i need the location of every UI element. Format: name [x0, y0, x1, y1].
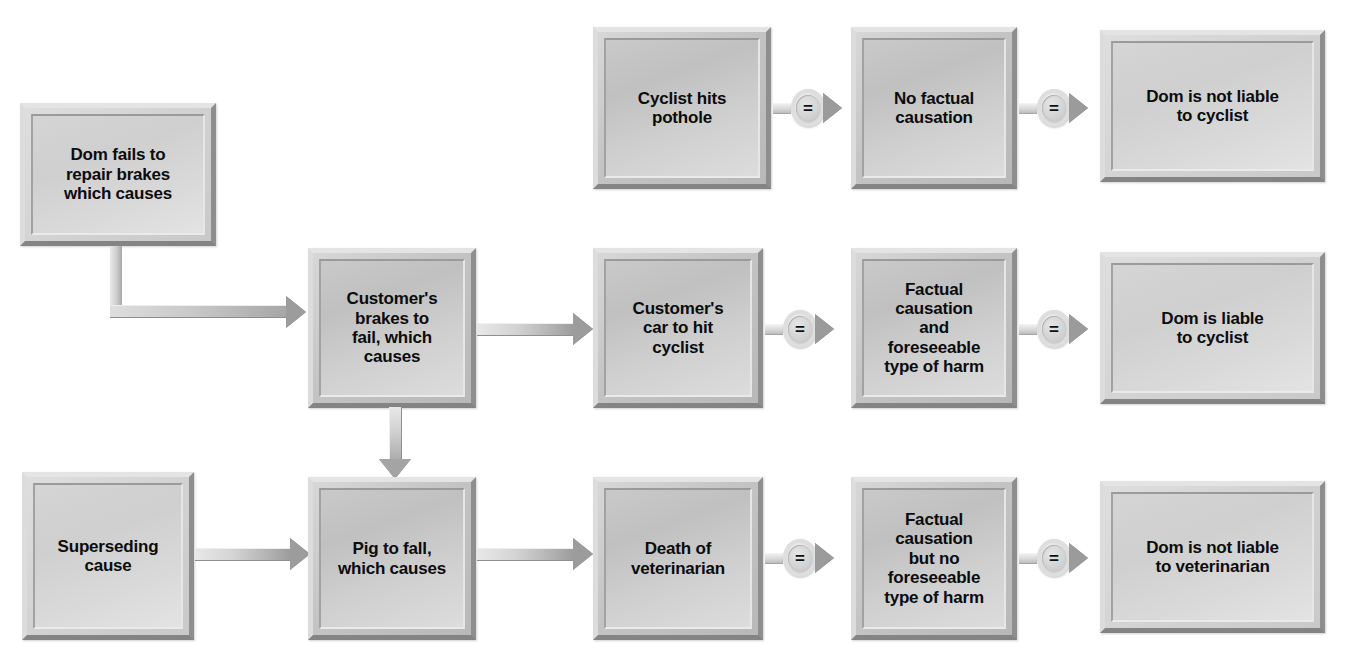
- connector-bar: [765, 553, 783, 564]
- node-label: Customer's car to hit cyclist: [627, 299, 730, 357]
- connector-nofactual-to-notliable: =: [1019, 89, 1088, 127]
- node-cyclist-hits-pothole[interactable]: Cyclist hits pothole: [593, 27, 771, 189]
- connector-brakes-to-car: [477, 313, 593, 345]
- equals-symbol: =: [795, 321, 805, 338]
- arrow-shaft: [195, 548, 290, 561]
- connector-factual-to-liable: =: [1019, 310, 1088, 348]
- node-dom-not-liable-to-veterinarian[interactable]: Dom is not liable to veterinarian: [1100, 481, 1325, 633]
- node-label: Customer's brakes to fail, which causes: [341, 289, 444, 367]
- node-label: Factual causation and foreseeable type o…: [878, 280, 990, 377]
- node-label: Dom is liable to cyclist: [1155, 309, 1269, 348]
- flowchart-canvas: Cyclist hits pothole = No factual causat…: [0, 0, 1345, 663]
- node-factual-causation-and-foreseeable[interactable]: Factual causation and foreseeable type o…: [851, 248, 1017, 408]
- connector-bar: [765, 324, 783, 335]
- node-pig-to-fall[interactable]: Pig to fall, which causes: [308, 477, 476, 640]
- node-label: Dom fails to repair brakes which causes: [58, 145, 178, 203]
- arrowhead-icon: [573, 313, 593, 345]
- equals-badge: =: [1037, 310, 1071, 348]
- node-customers-brakes-to-fail[interactable]: Customer's brakes to fail, which causes: [308, 248, 476, 408]
- connector-bar: [1019, 553, 1037, 564]
- connector-domfails-to-brakes: [110, 246, 315, 336]
- node-dom-fails-to-repair-brakes[interactable]: Dom fails to repair brakes which causes: [20, 103, 216, 246]
- arrowhead-icon: [1069, 543, 1088, 573]
- elbow-horizontal-segment: [110, 305, 288, 318]
- equals-badge: =: [791, 89, 825, 127]
- connector-bar: [1019, 103, 1037, 114]
- node-label: Dom is not liable to cyclist: [1140, 87, 1285, 126]
- arrowhead-icon: [290, 538, 310, 570]
- connector-pothole-to-nofactual: =: [773, 89, 842, 127]
- elbow-vertical-segment: [110, 246, 122, 318]
- arrowhead-icon: [823, 93, 842, 123]
- equals-symbol: =: [795, 550, 805, 567]
- equals-badge: =: [783, 539, 817, 577]
- arrowhead-icon: [379, 459, 411, 479]
- connector-bar: [773, 103, 791, 114]
- equals-badge: =: [783, 310, 817, 348]
- arrow-shaft: [389, 407, 402, 459]
- node-label: Cyclist hits pothole: [632, 89, 732, 128]
- equals-badge: =: [1037, 539, 1071, 577]
- node-dom-is-liable-to-cyclist[interactable]: Dom is liable to cyclist: [1100, 252, 1325, 404]
- arrowhead-icon: [815, 543, 834, 573]
- equals-symbol: =: [803, 100, 813, 117]
- equals-symbol: =: [1049, 100, 1059, 117]
- node-label: No factual causation: [888, 89, 980, 128]
- node-label: Death of veterinarian: [625, 539, 731, 578]
- connector-bar: [1019, 324, 1037, 335]
- arrowhead-icon: [1069, 93, 1088, 123]
- connector-superseding-to-pig: [195, 538, 310, 570]
- connector-pig-to-death: [477, 538, 593, 570]
- node-death-of-veterinarian[interactable]: Death of veterinarian: [593, 477, 763, 640]
- node-no-factual-causation[interactable]: No factual causation: [851, 27, 1017, 189]
- arrowhead-icon: [815, 314, 834, 344]
- connector-death-to-factual: =: [765, 539, 834, 577]
- arrow-shaft: [477, 323, 573, 336]
- node-label: Superseding cause: [52, 537, 165, 576]
- node-label: Dom is not liable to veterinarian: [1140, 538, 1285, 577]
- arrowhead-icon: [286, 296, 306, 328]
- connector-brakes-to-pig: [379, 407, 411, 479]
- equals-symbol: =: [1049, 321, 1059, 338]
- node-dom-not-liable-to-cyclist[interactable]: Dom is not liable to cyclist: [1100, 30, 1325, 182]
- connector-factual-to-notliable-vet: =: [1019, 539, 1088, 577]
- arrowhead-icon: [1069, 314, 1088, 344]
- arrow-shaft: [477, 548, 573, 561]
- node-label: Pig to fall, which causes: [332, 539, 452, 578]
- arrowhead-icon: [573, 538, 593, 570]
- equals-badge: =: [1037, 89, 1071, 127]
- node-superseding-cause[interactable]: Superseding cause: [22, 472, 194, 640]
- equals-symbol: =: [1049, 550, 1059, 567]
- node-factual-causation-but-no-foreseeable[interactable]: Factual causation but no foreseeable typ…: [851, 477, 1017, 640]
- node-label: Factual causation but no foreseeable typ…: [878, 510, 990, 607]
- node-customers-car-to-hit-cyclist[interactable]: Customer's car to hit cyclist: [593, 248, 763, 408]
- connector-car-to-factual: =: [765, 310, 834, 348]
